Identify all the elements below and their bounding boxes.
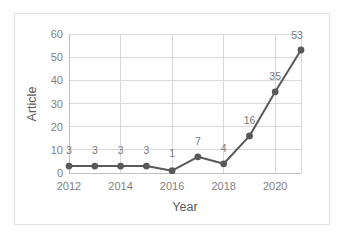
y-tick-label-30: 30 xyxy=(51,98,63,110)
data-label-2018: 4 xyxy=(221,142,227,154)
y-tick-label-10: 10 xyxy=(51,144,63,156)
data-point-2017 xyxy=(195,153,202,160)
y-axis-title: Article xyxy=(25,87,39,122)
x-axis-title: Year xyxy=(172,200,197,214)
y-tick-label-40: 40 xyxy=(51,74,63,86)
y-tick-label-50: 50 xyxy=(51,51,63,63)
x-tick-label-2018: 2018 xyxy=(211,180,235,192)
line-chart: 60 50 40 30 20 10 0 2012 2014 2016 2018 … xyxy=(15,14,331,226)
x-tick-label-2014: 2014 xyxy=(108,180,132,192)
data-point-2012 xyxy=(66,163,73,170)
data-point-2016 xyxy=(169,167,176,174)
data-point-2018 xyxy=(220,160,227,167)
chart-frame: 60 50 40 30 20 10 0 2012 2014 2016 2018 … xyxy=(14,13,330,225)
x-axis-tick-labels: 2012 2014 2016 2018 2020 xyxy=(57,180,288,192)
y-tick-label-60: 60 xyxy=(51,28,63,40)
data-label-2016: 1 xyxy=(169,147,175,159)
data-point-2020 xyxy=(272,88,279,95)
x-tick-label-2012: 2012 xyxy=(57,180,81,192)
y-tick-label-20: 20 xyxy=(51,121,63,133)
y-axis-tick-labels: 60 50 40 30 20 10 0 xyxy=(51,28,63,179)
data-label-2012: 3 xyxy=(66,144,72,156)
data-point-2015 xyxy=(143,163,150,170)
data-point-2014 xyxy=(117,163,124,170)
data-point-2019 xyxy=(246,133,253,140)
data-label-2017: 7 xyxy=(195,135,201,147)
y-tick-label-0: 0 xyxy=(57,167,63,179)
data-point-2021 xyxy=(298,47,305,54)
x-tick-label-2016: 2016 xyxy=(160,180,184,192)
data-label-2021: 53 xyxy=(291,29,303,41)
x-tick-label-2020: 2020 xyxy=(263,180,287,192)
data-label-2015: 3 xyxy=(143,144,149,156)
data-label-2020: 35 xyxy=(269,70,281,82)
data-point-2013 xyxy=(91,163,98,170)
data-label-2013: 3 xyxy=(92,144,98,156)
data-label-2014: 3 xyxy=(118,144,124,156)
data-label-2019: 16 xyxy=(244,114,256,126)
